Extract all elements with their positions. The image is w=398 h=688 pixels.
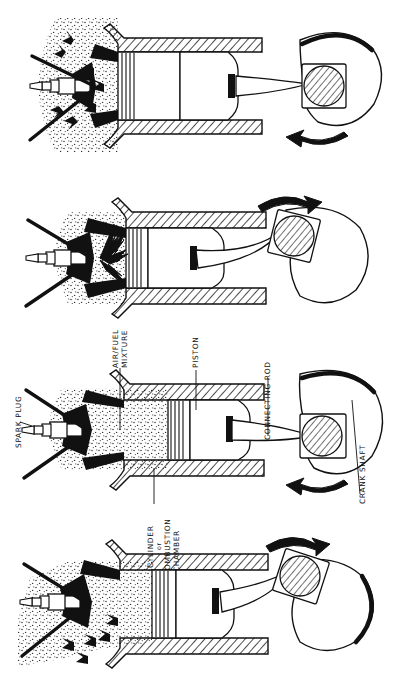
piston-pin — [228, 74, 235, 98]
label-piston: PISTON — [191, 337, 200, 368]
panel-power-drawing — [0, 172, 398, 344]
panel-compression: SPARK PLUG AIR/FUEL MIXTURE PISTON CYLIN… — [0, 344, 398, 516]
intake-valve-open — [106, 638, 268, 668]
panel-intake-drawing — [0, 516, 398, 688]
cylinder-head-lower — [110, 460, 264, 490]
crank-pin — [274, 216, 314, 256]
cylinder-head-upper — [112, 198, 266, 228]
label-spark-plug: SPARK PLUG — [14, 396, 23, 448]
label-connecting-rod: CONNECTING ROD — [263, 361, 272, 440]
cylinder-head-upper — [104, 24, 262, 52]
crank-rotation-arrow — [286, 130, 348, 147]
label-air-fuel-line2: MIXTURE — [120, 330, 129, 368]
engine-cycle-figure: SPARK PLUG AIR/FUEL MIXTURE PISTON CYLIN… — [0, 0, 398, 688]
spark-plug — [22, 422, 82, 438]
cylinder-head-lower — [104, 120, 262, 148]
spark-plug — [26, 250, 86, 266]
crank-rotation-arrow — [286, 478, 348, 495]
panel-intake — [0, 516, 398, 688]
label-crank-shaft: CRANK SHAFT — [358, 445, 367, 504]
panel-exhaust — [0, 0, 398, 172]
panel-exhaust-drawing — [0, 0, 398, 172]
crank-pin — [280, 556, 320, 596]
piston-body — [118, 52, 180, 120]
crank-pin — [304, 66, 344, 106]
piston-pin — [212, 588, 219, 614]
cylinder-head-upper — [110, 370, 264, 400]
crank-pin — [302, 416, 342, 456]
connecting-rod — [236, 76, 308, 96]
panel-power — [0, 172, 398, 344]
label-air-fuel-line1: AIR/FUEL — [111, 329, 120, 368]
panel-compression-drawing — [0, 344, 398, 516]
cylinder-head-lower — [112, 288, 266, 318]
cylinder-head-upper — [106, 540, 268, 570]
